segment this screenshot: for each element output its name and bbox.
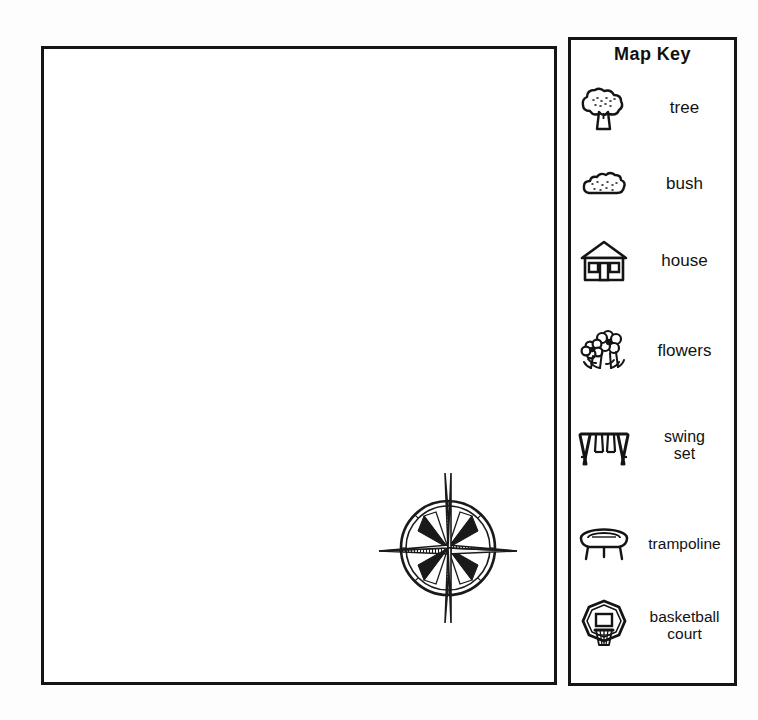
map-key-label: bush xyxy=(637,175,734,193)
map-key-item-house[interactable]: house xyxy=(571,232,734,290)
map-key-panel: Map Key xyxy=(568,37,737,686)
map-key-label: flowers xyxy=(637,342,734,360)
map-key-label: tree xyxy=(637,99,734,117)
trampoline-icon xyxy=(571,515,637,573)
map-key-label: basketball court xyxy=(637,609,734,642)
tree-icon xyxy=(571,79,637,137)
map-key-label: trampoline xyxy=(637,536,734,552)
map-key-label: swing set xyxy=(637,429,734,463)
map-key-item-swing-set[interactable]: swing set xyxy=(571,417,734,475)
map-key-item-flowers[interactable]: flowers xyxy=(571,322,734,380)
worksheet: Map Key xyxy=(0,0,758,720)
flowers-icon xyxy=(571,322,637,380)
map-key-list: tree bush xyxy=(571,67,734,675)
map-key-title: Map Key xyxy=(571,40,734,67)
map-key-label: house xyxy=(637,252,734,270)
compass-rose-icon xyxy=(374,469,522,627)
bush-icon xyxy=(571,155,637,213)
map-drawing-area[interactable] xyxy=(41,46,557,685)
map-key-item-basketball-court[interactable]: basketball court xyxy=(571,597,734,655)
swing-set-icon xyxy=(571,417,637,475)
basketball-court-icon xyxy=(571,597,637,655)
map-key-item-bush[interactable]: bush xyxy=(571,155,734,213)
house-icon xyxy=(571,232,637,290)
map-key-item-trampoline[interactable]: trampoline xyxy=(571,515,734,573)
map-key-item-tree[interactable]: tree xyxy=(571,79,734,137)
